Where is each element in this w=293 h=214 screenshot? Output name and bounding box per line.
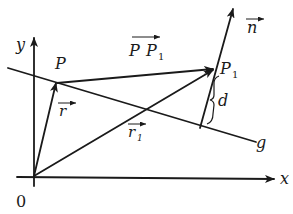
- vector-r1-label: r: [128, 123, 136, 141]
- origin-label: 0: [16, 192, 26, 211]
- line-g-label: g: [256, 133, 266, 152]
- point-P1-label: P: [219, 59, 231, 78]
- vector-PP1-subscript: 1: [158, 51, 164, 62]
- vector-PP1-label-b: P: [145, 41, 157, 60]
- point-P1-subscript: 1: [232, 69, 238, 80]
- vector-n-label: n: [247, 18, 257, 37]
- vector-PP1: [57, 69, 213, 83]
- vector-r1: [34, 70, 213, 176]
- vector-diagram: y x 0 P P 1 g d r r 1 P P 1 n: [0, 0, 293, 214]
- vector-PP1-label-a: P: [128, 41, 140, 60]
- y-axis-label: y: [15, 35, 26, 54]
- vector-r: [34, 83, 56, 176]
- x-axis-label: x: [280, 169, 289, 188]
- distance-d-label: d: [218, 91, 228, 110]
- point-P-label: P: [54, 54, 66, 73]
- x-axis: [17, 177, 274, 179]
- vector-r-label: r: [59, 102, 67, 120]
- vector-r1-subscript: 1: [137, 133, 143, 143]
